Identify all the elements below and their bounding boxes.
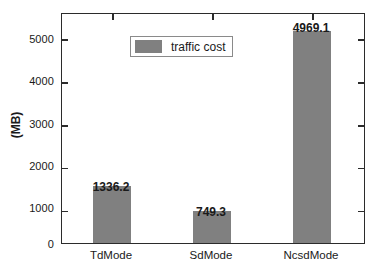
y-tick-label-4000: 4000: [0, 75, 54, 87]
legend[interactable]: traffic cost: [130, 36, 233, 57]
bar-ncsdmode[interactable]: [293, 31, 331, 244]
y-tick-mark-right-1000: [358, 211, 364, 213]
bar-tdmode[interactable]: [93, 186, 131, 243]
y-tick-mark-right-2000: [358, 168, 364, 170]
y-tick-mark-4000: [62, 82, 68, 84]
y-tick-mark-5000: [62, 39, 68, 41]
bar-value-sdmode: 749.3: [171, 205, 251, 219]
y-tick-mark-1000: [62, 211, 68, 213]
y-tick-mark-right-3000: [358, 125, 364, 127]
bar-value-tdmode: 1336.2: [71, 180, 151, 194]
y-tick-mark-3000: [62, 125, 68, 127]
y-tick-label-5000: 5000: [0, 33, 54, 45]
legend-swatch-traffic-cost: [135, 40, 162, 53]
x-axis-label-sdmode: SdMode: [166, 249, 256, 261]
y-tick-label-0: 0: [0, 238, 54, 250]
x-axis-label-ncsdmode: NcsdMode: [266, 249, 356, 261]
x-axis-label-tdmode: TdMode: [66, 249, 156, 261]
y-tick-mark-2000: [62, 168, 68, 170]
y-tick-mark-right-5000: [358, 39, 364, 41]
x-tick-mark-top-1: [112, 14, 114, 20]
y-tick-mark-right-4000: [358, 82, 364, 84]
x-tick-mark-top-3: [312, 14, 314, 20]
y-axis-title: (MB): [9, 95, 23, 155]
y-tick-label-1000: 1000: [0, 202, 54, 214]
x-tick-mark-top-2: [212, 14, 214, 20]
legend-label-traffic-cost: traffic cost: [171, 41, 225, 53]
y-tick-label-2000: 2000: [0, 160, 54, 172]
chart-screenshot: 5000 4000 3000 2000 1000 0 (MB): [0, 0, 383, 273]
bar-value-ncsdmode: 4969.1: [271, 21, 351, 35]
